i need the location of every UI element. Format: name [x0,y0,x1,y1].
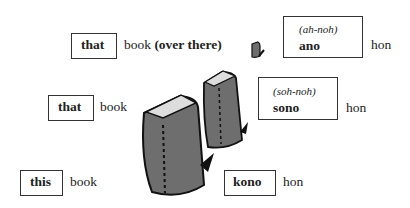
book-icon-far [252,42,264,57]
book-icon-middle [204,71,248,148]
books-illustration [0,0,410,208]
